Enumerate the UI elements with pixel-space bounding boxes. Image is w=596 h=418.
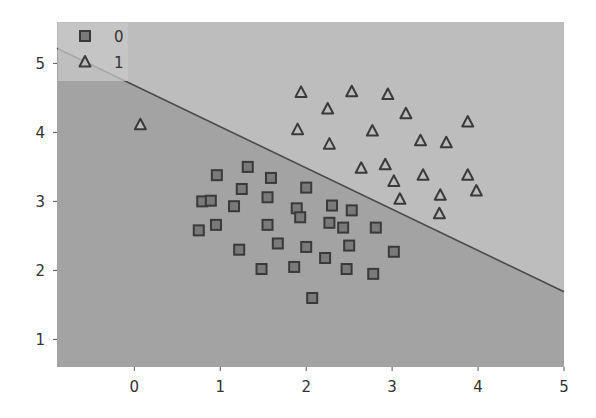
legend: 01 xyxy=(58,23,128,81)
square-marker xyxy=(320,253,330,263)
square-marker xyxy=(301,242,311,252)
square-marker xyxy=(344,241,354,251)
square-marker xyxy=(368,269,378,279)
square-marker xyxy=(347,205,357,215)
square-marker xyxy=(342,264,352,274)
square-marker xyxy=(324,218,334,228)
square-marker xyxy=(273,238,283,248)
x-tick-label: 3 xyxy=(387,378,397,396)
square-marker xyxy=(371,223,381,233)
square-marker xyxy=(206,196,216,206)
legend-label: 1 xyxy=(114,54,124,72)
y-tick-label: 4 xyxy=(35,124,45,142)
square-marker xyxy=(263,220,273,230)
square-marker xyxy=(194,225,204,235)
y-tick-label: 3 xyxy=(35,193,45,211)
square-marker xyxy=(266,173,276,183)
square-marker xyxy=(338,223,348,233)
x-tick-label: 5 xyxy=(559,378,569,396)
square-marker xyxy=(211,220,221,230)
y-tick-label: 1 xyxy=(35,331,45,349)
scatter-chart: 012345 12345 01 xyxy=(0,0,596,418)
square-marker xyxy=(212,170,222,180)
square-marker xyxy=(257,264,267,274)
square-marker xyxy=(307,293,317,303)
square-marker xyxy=(229,201,239,211)
square-marker xyxy=(263,192,273,202)
x-tick-label: 4 xyxy=(473,378,483,396)
square-marker xyxy=(243,162,253,172)
square-marker xyxy=(80,31,90,41)
square-marker xyxy=(237,184,247,194)
legend-label: 0 xyxy=(114,28,124,46)
square-marker xyxy=(327,201,337,211)
y-axis: 12345 xyxy=(35,55,57,349)
x-tick-label: 1 xyxy=(215,378,225,396)
square-marker xyxy=(301,183,311,193)
square-marker xyxy=(234,245,244,255)
square-marker xyxy=(289,262,299,272)
x-axis: 012345 xyxy=(130,367,569,396)
plot-area xyxy=(57,22,564,367)
y-tick-label: 2 xyxy=(35,262,45,280)
y-tick-label: 5 xyxy=(35,55,45,73)
square-marker xyxy=(389,247,399,257)
square-marker xyxy=(295,212,305,222)
x-tick-label: 0 xyxy=(130,378,140,396)
x-tick-label: 2 xyxy=(301,378,311,396)
